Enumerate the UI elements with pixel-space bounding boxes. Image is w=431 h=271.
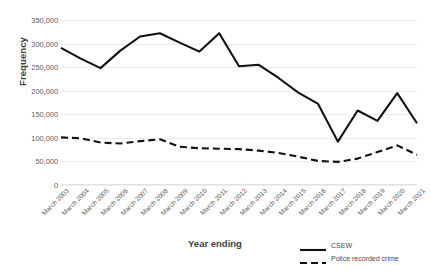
y-axis-tick-label: 100,000 (18, 133, 58, 142)
y-axis-tick-label: 50,000 (18, 157, 58, 166)
legend-label: Police recorded crime (331, 255, 399, 262)
y-axis-tick-labels: 350,000300,000250,000200,000150,000100,0… (18, 20, 58, 185)
x-axis-tick-labels: March 2003March 2004March 2005March 2006… (61, 187, 417, 233)
y-axis-tick-label: 300,000 (18, 39, 58, 48)
legend-item: Police recorded crime (300, 252, 431, 265)
series-line-csew (61, 33, 417, 141)
y-axis-tick-label: 0 (18, 181, 58, 190)
gridline (61, 185, 417, 186)
y-axis-tick-label: 150,000 (18, 110, 58, 119)
legend-item: CSEW (300, 239, 431, 252)
line-chart: Frequency 350,000300,000250,000200,00015… (0, 0, 431, 271)
x-axis-title: Year ending (120, 238, 310, 249)
legend-swatch-solid (300, 241, 326, 251)
series-line-police-recorded-crime (61, 137, 417, 162)
legend-label: CSEW (331, 242, 352, 249)
y-axis-tick-label: 200,000 (18, 86, 58, 95)
plot-area (61, 20, 417, 185)
y-axis-tick-label: 250,000 (18, 63, 58, 72)
legend-swatch-dashed (300, 254, 326, 264)
y-axis-tick-label: 350,000 (18, 16, 58, 25)
series-layer (61, 20, 417, 185)
chart-legend: CSEWPolice recorded crime (300, 239, 431, 265)
